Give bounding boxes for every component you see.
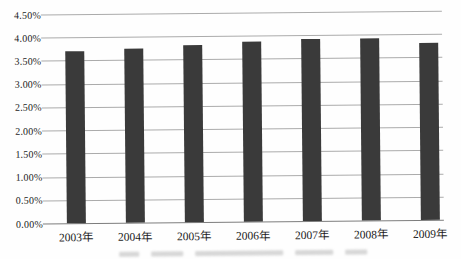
caption-smudge-fragment bbox=[151, 251, 183, 256]
x-tick-label: 2006年 bbox=[225, 226, 281, 243]
x-tick-label: 2005年 bbox=[166, 227, 222, 244]
plot-area bbox=[46, 11, 444, 224]
x-tick-label: 2004年 bbox=[107, 227, 163, 244]
y-tick-label: 2.50% bbox=[0, 101, 42, 114]
caption-smudge-fragment bbox=[345, 249, 367, 254]
caption-smudge-fragment bbox=[295, 250, 333, 255]
bar-7 bbox=[419, 42, 440, 220]
bar-2 bbox=[124, 48, 145, 222]
y-tick-label: 1.50% bbox=[0, 147, 42, 160]
y-tick-label: 3.50% bbox=[0, 55, 41, 68]
y-tick-label: 1.00% bbox=[0, 171, 42, 184]
bar-1 bbox=[65, 51, 86, 223]
y-tick-label: 0.50% bbox=[1, 194, 43, 207]
caption-smudge-fragment bbox=[195, 250, 283, 256]
y-tick-label: 2.00% bbox=[0, 124, 42, 137]
x-tick-label: 2003年 bbox=[48, 228, 104, 245]
y-tick-label: 4.00% bbox=[0, 31, 41, 44]
caption-smudge-fragment bbox=[119, 252, 139, 257]
x-tick-label: 2008年 bbox=[343, 225, 399, 242]
scan-tilt-layer: 4.50%4.00%3.50%3.00%2.50%2.00%1.50%1.00%… bbox=[0, 0, 461, 259]
y-tick-label: 4.50% bbox=[0, 8, 41, 21]
x-tick-label: 2009年 bbox=[402, 225, 458, 242]
bar-3 bbox=[183, 45, 204, 222]
bar-6 bbox=[360, 38, 381, 221]
bar-4 bbox=[242, 42, 263, 222]
y-tick-label: 3.00% bbox=[0, 78, 42, 91]
scanned-bar-chart: 4.50%4.00%3.50%3.00%2.50%2.00%1.50%1.00%… bbox=[0, 0, 461, 259]
x-axis: 2003年2004年2005年2006年2007年2008年2009年 bbox=[48, 225, 444, 247]
y-tick-label: 0.00% bbox=[1, 217, 43, 230]
x-tick-label: 2007年 bbox=[284, 226, 340, 243]
gridline bbox=[41, 34, 442, 39]
bar-5 bbox=[301, 39, 322, 221]
